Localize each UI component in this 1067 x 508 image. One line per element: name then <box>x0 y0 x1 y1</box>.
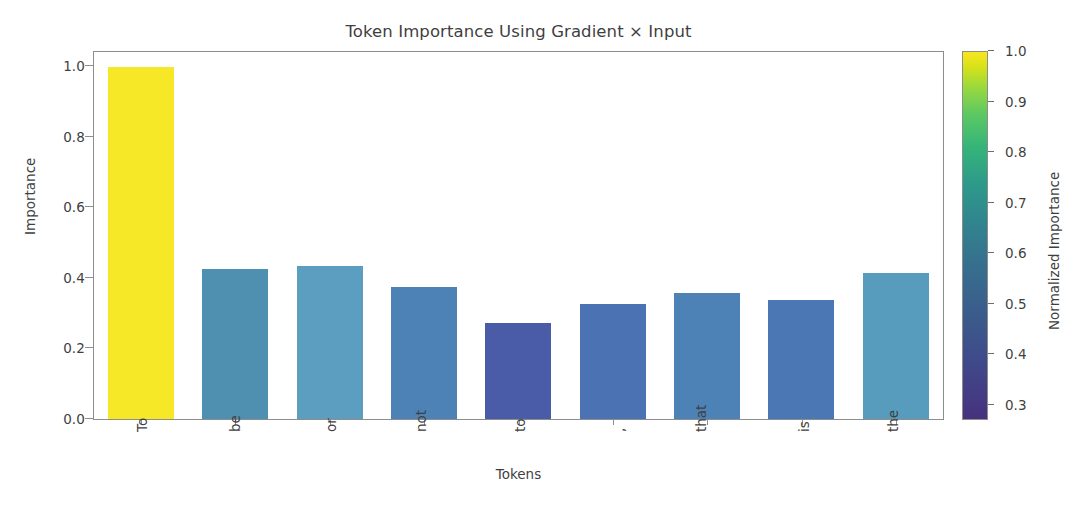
colorbar-tick-mark: 0.8 <box>988 151 994 152</box>
colorbar-tick-mark: 0.4 <box>988 353 994 354</box>
bar[interactable] <box>580 304 646 419</box>
x-tick-label: be <box>227 415 243 432</box>
colorbar-tick-mark: 0.5 <box>988 303 994 304</box>
y-tick-label: 0.2 <box>63 340 84 356</box>
chart-title: Token Importance Using Gradient × Input <box>93 22 944 41</box>
bars-container <box>94 52 943 419</box>
bar[interactable] <box>391 287 457 419</box>
colorbar-tick-label: 1.0 <box>1005 43 1026 59</box>
bar[interactable] <box>202 269 268 419</box>
bar-slot <box>566 52 660 419</box>
colorbar-tick-label: 0.3 <box>1005 397 1026 413</box>
bar[interactable] <box>768 300 834 419</box>
bar-slot <box>471 52 565 419</box>
colorbar-tick-mark: 1.0 <box>988 50 994 51</box>
bar-slot <box>377 52 471 419</box>
colorbar-tick-label: 0.8 <box>1005 144 1026 160</box>
colorbar: 0.30.40.50.60.70.80.91.0 <box>962 51 988 420</box>
bar-slot <box>754 52 848 419</box>
bar-slot <box>188 52 282 419</box>
colorbar-tick-mark: 0.7 <box>988 202 994 203</box>
x-tick-label: , <box>611 428 627 432</box>
plot-axes: 0.00.20.40.60.81.0 Tobeornotto,thatisthe <box>93 51 944 420</box>
y-tick-mark: 0.0 <box>85 418 94 419</box>
bar-slot <box>849 52 943 419</box>
bar-slot <box>94 52 188 419</box>
bar[interactable] <box>674 293 740 419</box>
colorbar-tick-label: 0.6 <box>1005 245 1026 261</box>
x-tick-mark <box>613 419 614 425</box>
bar-slot <box>660 52 754 419</box>
y-tick-mark: 0.8 <box>85 136 94 137</box>
x-tick-label: that <box>693 405 709 432</box>
colorbar-tick-mark: 0.6 <box>988 252 994 253</box>
y-tick-label: 0.6 <box>63 199 84 215</box>
x-tick-label: to <box>512 418 528 432</box>
y-tick-label: 0.0 <box>63 411 84 427</box>
bar[interactable] <box>485 323 551 419</box>
y-axis-label: Importance <box>22 158 38 235</box>
bar-slot <box>283 52 377 419</box>
y-tick-label: 1.0 <box>63 58 84 74</box>
colorbar-gradient <box>962 51 988 420</box>
x-tick-label: is <box>796 421 812 432</box>
colorbar-tick-label: 0.7 <box>1005 195 1026 211</box>
x-tick-label: the <box>885 410 901 432</box>
y-tick-label: 0.8 <box>63 129 84 145</box>
bar[interactable] <box>108 67 174 419</box>
x-axis-label: Tokens <box>93 466 944 482</box>
y-tick-mark: 0.4 <box>85 277 94 278</box>
bar[interactable] <box>297 266 363 420</box>
bar[interactable] <box>863 273 929 419</box>
x-tick-label: not <box>413 410 429 432</box>
y-tick-mark: 1.0 <box>85 65 94 66</box>
colorbar-label: Normalized Importance <box>1046 172 1062 330</box>
colorbar-tick-mark: 0.3 <box>988 404 994 405</box>
x-tick-label: To <box>134 418 150 432</box>
colorbar-tick-label: 0.4 <box>1005 346 1026 362</box>
colorbar-tick-label: 0.5 <box>1005 296 1026 312</box>
y-tick-label: 0.4 <box>63 270 84 286</box>
y-tick-mark: 0.6 <box>85 206 94 207</box>
colorbar-tick-label: 0.9 <box>1005 94 1026 110</box>
y-tick-mark: 0.2 <box>85 347 94 348</box>
chart-figure: Token Importance Using Gradient × Input … <box>0 0 1067 508</box>
x-tick-label: or <box>323 418 339 432</box>
colorbar-tick-mark: 0.9 <box>988 101 994 102</box>
